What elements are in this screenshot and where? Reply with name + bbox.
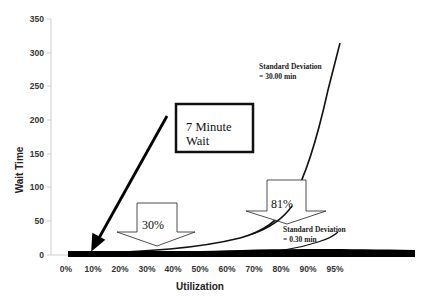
y-axis-ticks (47, 19, 51, 255)
seven-minute-wait-callout: 7 Minute Wait (176, 104, 253, 152)
wait-box-line2: Wait (186, 134, 210, 148)
arrow-81-percent: 81% (246, 180, 326, 224)
y-tick-50: 50 (35, 216, 45, 226)
sd-low-line1: Standard Deviation (283, 225, 347, 234)
y-axis-tick-labels: 350 300 250 200 150 100 50 0 (30, 14, 44, 260)
x-tick-80: 80% (272, 264, 289, 274)
y-tick-250: 250 (30, 81, 44, 91)
y-tick-300: 300 (30, 48, 44, 58)
x-tick-20: 20% (111, 264, 128, 274)
sd-high-line2: = 30.00 min (259, 72, 297, 81)
arrow-30-percent: 30% (117, 203, 195, 246)
sd-low-label: Standard Deviation = 0.30 min (283, 225, 347, 244)
x-tick-10: 10% (84, 264, 101, 274)
sd-low-line2: = 0.30 min (283, 235, 317, 244)
y-tick-100: 100 (30, 182, 44, 192)
y-axis-title: Wait Time (14, 146, 25, 193)
x-tick-40: 40% (164, 264, 181, 274)
x-tick-30: 30% (138, 264, 155, 274)
x-tick-90: 90% (299, 264, 316, 274)
x-tick-50: 50% (191, 264, 208, 274)
x-tick-95: 95% (326, 264, 343, 274)
arrow-30-label: 30% (142, 218, 164, 232)
y-tick-150: 150 (30, 149, 44, 159)
y-tick-0: 0 (39, 250, 44, 260)
y-tick-350: 350 (30, 14, 44, 24)
x-axis-tick-labels: 0% 10% 20% 30% 40% 50% 60% 70% 80% 90% 9… (60, 264, 344, 274)
utilization-wait-chart: 350 300 250 200 150 100 50 0 Wait Time 0… (0, 0, 429, 299)
x-axis-title: Utilization (176, 281, 224, 292)
thick-baseline-bar (68, 249, 415, 257)
x-tick-0: 0% (60, 264, 73, 274)
y-tick-200: 200 (30, 115, 44, 125)
wait-box-line1: 7 Minute (186, 120, 232, 134)
sd-high-label: Standard Deviation = 30.00 min (259, 62, 323, 81)
x-tick-60: 60% (218, 264, 235, 274)
x-tick-70: 70% (245, 264, 262, 274)
sd-high-line1: Standard Deviation (259, 62, 323, 71)
